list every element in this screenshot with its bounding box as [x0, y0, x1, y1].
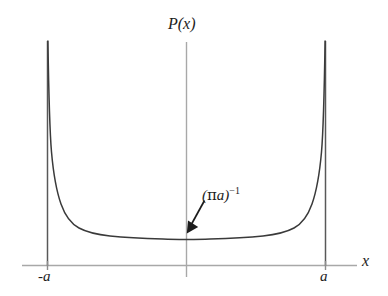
y-axis-label: P(x)	[168, 16, 196, 32]
x-tick-label-positive-a: a	[320, 269, 328, 284]
x-tick-label-negative-a: -a	[38, 269, 51, 284]
annotation-arrow-shaft	[191, 201, 205, 227]
annotation-pi-symbol: π	[207, 186, 217, 204]
x-axis-label: x	[362, 253, 369, 269]
plot-canvas	[0, 0, 388, 296]
annotation-exponent: −1	[229, 185, 240, 196]
minimum-value-annotation-label: (πa)−1	[202, 186, 240, 203]
arcsine-distribution-figure: P(x) x -a a (πa)−1	[0, 0, 388, 296]
